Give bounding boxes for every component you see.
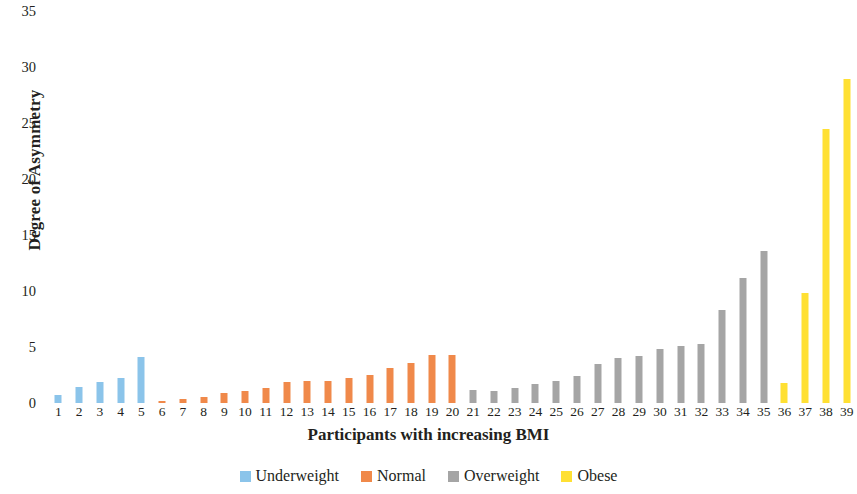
bar-5[interactable] <box>138 357 145 403</box>
bar-slot <box>172 10 193 403</box>
bar-slot <box>774 10 795 403</box>
x-axis-tick-35: 35 <box>757 404 771 420</box>
x-axis-tick-28: 28 <box>612 404 626 420</box>
bar-slot <box>69 10 90 403</box>
bar-slot <box>401 10 422 403</box>
bar-35[interactable] <box>760 251 767 403</box>
x-axis-tick-33: 33 <box>715 404 729 420</box>
bar-28[interactable] <box>615 358 622 403</box>
y-axis-tick-25: 25 <box>0 116 36 131</box>
bar-11[interactable] <box>262 388 269 403</box>
legend-swatch-icon <box>448 471 459 482</box>
x-axis-tick-11: 11 <box>259 404 272 420</box>
bar-33[interactable] <box>719 310 726 403</box>
chart-legend: UnderweightNormalOverweightObese <box>0 468 857 484</box>
bar-1[interactable] <box>55 395 62 403</box>
bar-17[interactable] <box>387 368 394 403</box>
y-axis-tick-35: 35 <box>0 4 36 19</box>
bar-24[interactable] <box>532 384 539 403</box>
bar-20[interactable] <box>449 355 456 403</box>
x-axis-tick-6: 6 <box>159 404 166 420</box>
x-axis-tick-13: 13 <box>301 404 315 420</box>
x-axis-tick-17: 17 <box>384 404 398 420</box>
x-axis-tick-5: 5 <box>138 404 145 420</box>
x-axis-tick-8: 8 <box>200 404 207 420</box>
y-axis-tick-5: 5 <box>0 340 36 355</box>
bar-slot <box>442 10 463 403</box>
bar-4[interactable] <box>117 378 124 403</box>
x-axis-tick-34: 34 <box>736 404 750 420</box>
x-axis-tick-14: 14 <box>321 404 335 420</box>
bar-32[interactable] <box>698 344 705 403</box>
bar-slot <box>670 10 691 403</box>
x-axis-tick-15: 15 <box>342 404 356 420</box>
bar-31[interactable] <box>677 346 684 403</box>
bar-27[interactable] <box>594 364 601 403</box>
y-axis-tick-labels: 05101520253035 <box>0 0 46 410</box>
bar-slot <box>276 10 297 403</box>
bar-6[interactable] <box>159 401 166 403</box>
bar-slot <box>816 10 837 403</box>
bar-21[interactable] <box>470 390 477 403</box>
bar-23[interactable] <box>511 388 518 403</box>
x-axis-tick-3: 3 <box>96 404 103 420</box>
bar-3[interactable] <box>96 382 103 403</box>
bar-7[interactable] <box>179 399 186 403</box>
legend-item-overweight[interactable]: Overweight <box>448 468 540 484</box>
bar-slot <box>691 10 712 403</box>
bar-37[interactable] <box>802 293 809 403</box>
bar-slot <box>338 10 359 403</box>
bar-19[interactable] <box>428 355 435 403</box>
x-axis-tick-1: 1 <box>55 404 62 420</box>
plot-area <box>48 10 857 403</box>
bar-10[interactable] <box>242 391 249 403</box>
bar-slot <box>380 10 401 403</box>
bar-22[interactable] <box>490 391 497 403</box>
bar-slot <box>359 10 380 403</box>
bar-slot <box>484 10 505 403</box>
x-axis-tick-36: 36 <box>778 404 792 420</box>
x-axis-tick-25: 25 <box>549 404 563 420</box>
x-axis-tick-32: 32 <box>695 404 709 420</box>
bar-12[interactable] <box>283 382 290 403</box>
bar-26[interactable] <box>573 376 580 403</box>
bar-chart: Degree of Asymmetry 05101520253035 12345… <box>0 0 857 494</box>
bar-slot <box>463 10 484 403</box>
bar-29[interactable] <box>636 356 643 403</box>
bar-38[interactable] <box>822 129 829 403</box>
legend-item-obese[interactable]: Obese <box>561 468 617 484</box>
bar-8[interactable] <box>200 397 207 403</box>
legend-swatch-icon <box>240 471 251 482</box>
bar-36[interactable] <box>781 383 788 403</box>
bar-13[interactable] <box>304 381 311 403</box>
x-axis-tick-23: 23 <box>508 404 522 420</box>
x-axis-tick-39: 39 <box>840 404 854 420</box>
bar-2[interactable] <box>76 387 83 403</box>
bar-slot <box>733 10 754 403</box>
bar-slot <box>504 10 525 403</box>
bar-slot <box>297 10 318 403</box>
bar-9[interactable] <box>221 393 228 403</box>
bar-18[interactable] <box>408 363 415 403</box>
bar-slot <box>235 10 256 403</box>
bar-25[interactable] <box>553 381 560 403</box>
x-axis-tick-9: 9 <box>221 404 228 420</box>
x-axis-tick-20: 20 <box>446 404 460 420</box>
legend-label: Normal <box>377 468 426 484</box>
bar-34[interactable] <box>739 278 746 403</box>
x-axis-tick-31: 31 <box>674 404 688 420</box>
legend-item-normal[interactable]: Normal <box>361 468 426 484</box>
bar-slot <box>608 10 629 403</box>
bar-16[interactable] <box>366 375 373 403</box>
bar-30[interactable] <box>656 349 663 403</box>
x-axis-tick-38: 38 <box>819 404 833 420</box>
bar-slot <box>152 10 173 403</box>
legend-swatch-icon <box>561 471 572 482</box>
bar-slot <box>525 10 546 403</box>
bar-slot <box>629 10 650 403</box>
bar-slot <box>110 10 131 403</box>
bar-15[interactable] <box>345 378 352 403</box>
legend-item-underweight[interactable]: Underweight <box>240 468 340 484</box>
bar-39[interactable] <box>843 79 850 403</box>
bar-14[interactable] <box>325 381 332 403</box>
